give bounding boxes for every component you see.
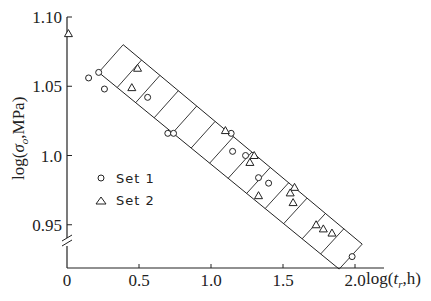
set1-circle-marker: [256, 175, 262, 181]
set2-triangle-marker: [128, 84, 136, 91]
scatter-chart: 00.51.01.52.00.951.01.051.10 Set 1 Set 2…: [0, 0, 431, 301]
set2-triangle-marker: [289, 199, 297, 206]
x-tick-label: 0.5: [128, 271, 149, 290]
y-tick-label: 1.10: [32, 8, 62, 27]
data-points: [64, 30, 355, 260]
y-tick-label: 0.95: [32, 216, 62, 235]
set2-triangle-marker: [64, 30, 72, 37]
set1-circle-marker: [101, 86, 107, 92]
set2-triangle-marker: [246, 158, 254, 165]
x-tick-label: 1.0: [200, 271, 221, 290]
hatched-band: [99, 45, 363, 269]
y-tick-label: 1.05: [32, 77, 62, 96]
set2-triangle-marker: [328, 229, 336, 236]
axis-break-icon: [62, 240, 72, 246]
set1-circle-marker: [171, 130, 177, 136]
set1-circle-marker: [349, 254, 355, 260]
set1-circle-marker: [266, 180, 272, 186]
x-tick-label: 0: [63, 271, 72, 290]
x-tick-label: 2.0: [344, 271, 365, 290]
set2-triangle-marker: [319, 225, 327, 232]
legend-set1-label: Set 1: [116, 171, 155, 186]
legend-triangle-icon: [96, 197, 106, 204]
axes: 00.51.01.52.00.951.01.051.10: [32, 8, 384, 290]
set2-triangle-marker: [255, 192, 263, 199]
band-hatch-line: [99, 45, 123, 73]
set1-circle-marker: [165, 130, 171, 136]
set1-circle-marker: [243, 153, 249, 159]
band-upper-line: [123, 45, 362, 244]
set1-circle-marker: [230, 148, 236, 154]
band-hatch-line: [154, 91, 178, 118]
set2-triangle-marker: [312, 221, 320, 228]
x-tick-label: 1.5: [272, 271, 293, 290]
set1-circle-marker: [86, 75, 92, 81]
set1-circle-marker: [96, 69, 102, 75]
set2-triangle-marker: [291, 183, 299, 190]
x-axis-title: log(tr,h): [366, 269, 421, 290]
y-tick-label: 1.0: [41, 147, 62, 166]
band-hatch-line: [173, 106, 197, 133]
band-hatch-line: [191, 121, 215, 148]
legend-circle-icon: [98, 175, 104, 181]
set1-circle-marker: [145, 94, 151, 100]
legend-set2-label: Set 2: [116, 193, 155, 208]
legend: Set 1 Set 2: [96, 171, 155, 208]
y-axis-title: log(σo,MPa): [9, 97, 30, 180]
